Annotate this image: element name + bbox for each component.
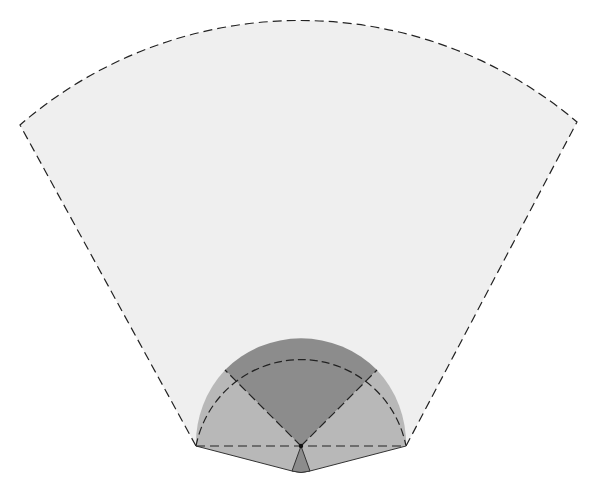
pivot-point: [299, 444, 303, 448]
diagram-canvas: [0, 0, 596, 494]
sector-diagram: [0, 0, 596, 494]
